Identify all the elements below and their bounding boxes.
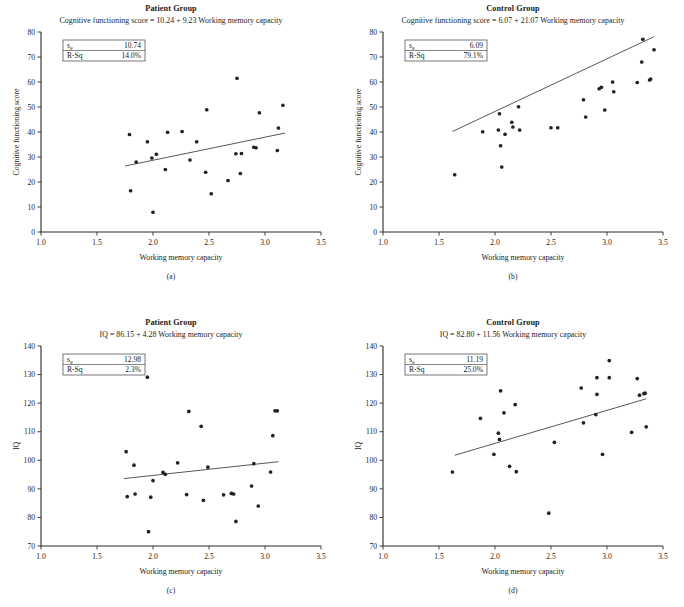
svg-text:Working memory capacity: Working memory capacity [482, 253, 565, 262]
svg-text:110: 110 [366, 427, 377, 436]
svg-text:70: 70 [369, 542, 377, 551]
svg-text:20: 20 [369, 178, 377, 187]
svg-text:25.0%: 25.0% [463, 365, 483, 374]
svg-text:30: 30 [369, 153, 377, 162]
svg-text:R-Sq: R-Sq [67, 365, 83, 374]
svg-text:3.5: 3.5 [658, 552, 668, 561]
svg-text:2.3%: 2.3% [125, 365, 141, 374]
panel-d-label: (d) [342, 586, 684, 595]
svg-text:2.5: 2.5 [546, 238, 556, 247]
svg-text:R-Sq: R-Sq [67, 51, 83, 60]
svg-text:120: 120 [366, 399, 378, 408]
svg-text:80: 80 [27, 28, 35, 37]
svg-text:IQ: IQ [354, 442, 363, 451]
svg-text:140: 140 [366, 342, 378, 351]
svg-text:20: 20 [27, 178, 35, 187]
panel-a: Patient Group Cognitive functioning scor… [0, 0, 342, 303]
svg-text:2.5: 2.5 [204, 552, 214, 561]
svg-text:1.0: 1.0 [378, 238, 388, 247]
svg-text:130: 130 [366, 370, 378, 379]
svg-text:40: 40 [369, 128, 377, 137]
panel-d-plot: 7080901001101201301401.01.52.02.53.03.5I… [342, 314, 684, 607]
svg-text:Cognitive functioning score: Cognitive functioning score [354, 88, 363, 176]
panel-a-label: (a) [0, 272, 342, 281]
svg-text:2.5: 2.5 [204, 238, 214, 247]
svg-text:3.5: 3.5 [316, 238, 326, 247]
svg-text:2.0: 2.0 [490, 552, 500, 561]
svg-text:11.19: 11.19 [466, 355, 483, 364]
svg-text:130: 130 [24, 370, 36, 379]
panel-d: Control Group IQ = 82.80 + 11.56 Working… [342, 304, 684, 607]
svg-text:60: 60 [369, 78, 377, 87]
svg-text:100: 100 [366, 456, 378, 465]
panel-b-plot: 010203040506070801.01.52.02.53.03.5Cogni… [342, 0, 684, 303]
svg-text:10: 10 [27, 203, 35, 212]
svg-text:2.0: 2.0 [148, 552, 158, 561]
svg-text:3.0: 3.0 [260, 238, 270, 247]
svg-text:3.5: 3.5 [316, 552, 326, 561]
svg-text:60: 60 [27, 78, 35, 87]
svg-text:70: 70 [27, 542, 35, 551]
svg-text:14.0%: 14.0% [121, 51, 141, 60]
svg-text:1.5: 1.5 [434, 552, 444, 561]
svg-text:3.5: 3.5 [658, 238, 668, 247]
svg-text:1.0: 1.0 [36, 238, 46, 247]
svg-text:Working memory capacity: Working memory capacity [140, 253, 223, 262]
svg-text:50: 50 [27, 103, 35, 112]
svg-text:40: 40 [27, 128, 35, 137]
svg-text:Working memory capacity: Working memory capacity [140, 567, 223, 576]
svg-text:80: 80 [27, 513, 35, 522]
svg-text:2.0: 2.0 [148, 238, 158, 247]
svg-text:0: 0 [31, 228, 35, 237]
svg-text:R-Sq: R-Sq [409, 51, 425, 60]
panel-a-plot: 010203040506070801.01.52.02.53.03.5Cogni… [0, 0, 342, 303]
svg-text:110: 110 [24, 427, 35, 436]
svg-text:79.1%: 79.1% [463, 51, 483, 60]
four-panel-scatter-figure: Patient Group Cognitive functioning scor… [0, 0, 684, 607]
svg-text:80: 80 [369, 28, 377, 37]
svg-text:Working memory capacity: Working memory capacity [482, 567, 565, 576]
svg-text:1.5: 1.5 [92, 552, 102, 561]
svg-text:70: 70 [369, 53, 377, 62]
panel-b: Control Group Cognitive functioning scor… [342, 0, 684, 303]
panel-c-plot: 7080901001101201301401.01.52.02.53.03.5I… [0, 314, 342, 607]
svg-text:70: 70 [27, 53, 35, 62]
panel-b-label: (b) [342, 272, 684, 281]
svg-text:2.5: 2.5 [546, 552, 556, 561]
svg-text:1.0: 1.0 [378, 552, 388, 561]
svg-text:IQ: IQ [12, 442, 21, 451]
panel-c-label: (c) [0, 586, 342, 595]
svg-text:80: 80 [369, 513, 377, 522]
svg-text:12.98: 12.98 [124, 355, 141, 364]
svg-text:3.0: 3.0 [602, 238, 612, 247]
svg-text:10.74: 10.74 [124, 41, 141, 50]
svg-text:Cognitive functioning score: Cognitive functioning score [12, 88, 21, 176]
svg-text:100: 100 [24, 456, 36, 465]
svg-text:3.0: 3.0 [260, 552, 270, 561]
svg-text:120: 120 [24, 399, 36, 408]
svg-text:2.0: 2.0 [490, 238, 500, 247]
svg-text:6.09: 6.09 [470, 41, 483, 50]
svg-text:90: 90 [369, 485, 377, 494]
svg-text:30: 30 [27, 153, 35, 162]
svg-text:1.0: 1.0 [36, 552, 46, 561]
panel-c: Patient Group IQ = 86.15 + 4.28 Working … [0, 304, 342, 607]
svg-text:10: 10 [369, 203, 377, 212]
svg-text:3.0: 3.0 [602, 552, 612, 561]
svg-text:1.5: 1.5 [434, 238, 444, 247]
svg-text:R-Sq: R-Sq [409, 365, 425, 374]
svg-text:50: 50 [369, 103, 377, 112]
svg-text:140: 140 [24, 342, 36, 351]
svg-text:90: 90 [27, 485, 35, 494]
svg-text:0: 0 [373, 228, 377, 237]
svg-text:1.5: 1.5 [92, 238, 102, 247]
